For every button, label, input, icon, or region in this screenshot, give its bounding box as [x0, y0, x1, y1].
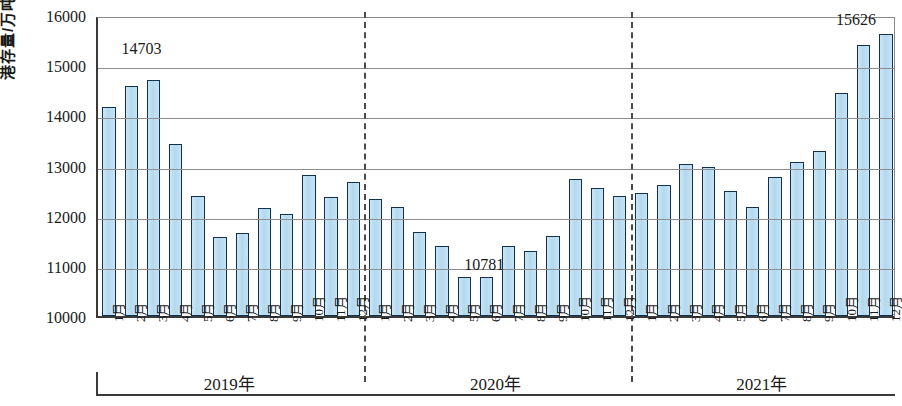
bar-chart: 港存量/万吨 100001100012000130001400015000160… — [0, 0, 902, 406]
bar[interactable] — [280, 214, 293, 316]
x-tick-label: 4月 — [445, 303, 458, 323]
bar[interactable] — [635, 193, 648, 316]
bar[interactable] — [857, 45, 870, 316]
bar[interactable] — [657, 185, 670, 316]
value-annotation: 10781 — [464, 257, 504, 273]
bar[interactable] — [679, 164, 692, 316]
gridline — [98, 118, 894, 119]
x-tick-label: 7月 — [778, 303, 791, 323]
x-axis-group-label: 2021年 — [629, 376, 895, 393]
bar[interactable] — [369, 199, 382, 316]
x-tick-label: 12月 — [889, 296, 902, 322]
y-tick-label: 15000 — [24, 59, 86, 75]
x-tick-label: 8月 — [267, 303, 280, 323]
bar[interactable] — [724, 191, 737, 316]
x-tick-label: 11月 — [867, 296, 880, 322]
x-tick-label: 8月 — [800, 303, 813, 323]
y-tick-label: 11000 — [24, 260, 86, 276]
x-tick-label: 7月 — [245, 303, 258, 323]
y-axis-title: 港存量/万吨 — [0, 0, 17, 80]
bar[interactable] — [102, 107, 115, 316]
x-axis-group-label: 2019年 — [96, 376, 362, 393]
y-tick-label: 14000 — [24, 109, 86, 125]
x-tick-label: 5月 — [467, 303, 480, 323]
bar[interactable] — [258, 208, 271, 316]
x-tick-label: 11月 — [334, 296, 347, 322]
x-tick-label: 7月 — [512, 303, 525, 323]
x-tick-label: 6月 — [223, 303, 236, 323]
x-tick-label: 11月 — [600, 296, 613, 322]
x-tick-label: 4月 — [179, 303, 192, 323]
x-tick-label: 2月 — [667, 303, 680, 323]
x-tick-label: 6月 — [489, 303, 502, 323]
gridline — [98, 219, 894, 220]
bar[interactable] — [835, 93, 848, 316]
x-tick-label: 3月 — [423, 303, 436, 323]
x-tick-label: 9月 — [290, 303, 303, 323]
value-annotation: 14703 — [121, 41, 161, 57]
x-tick-label: 12月 — [356, 296, 369, 322]
x-tick-label: 10月 — [578, 296, 591, 322]
y-tick-label: 16000 — [24, 9, 86, 25]
gridline — [98, 68, 894, 69]
x-tick-label: 5月 — [734, 303, 747, 323]
bar[interactable] — [790, 162, 803, 317]
gridline — [98, 169, 894, 170]
y-axis-tick-labels: 10000110001200013000140001500016000 — [20, 0, 86, 406]
x-tick-label: 12月 — [623, 296, 636, 322]
bar[interactable] — [191, 196, 204, 316]
x-tick-label: 10月 — [312, 296, 325, 322]
x-tick-label: 9月 — [822, 303, 835, 323]
bar[interactable] — [169, 144, 182, 316]
x-tick-label: 2月 — [401, 303, 414, 323]
bar[interactable] — [302, 175, 315, 316]
x-axis-tick-labels: 1月2月3月4月5月6月7月8月9月10月11月12月1月2月3月4月5月6月7… — [96, 320, 895, 376]
y-tick-label: 13000 — [24, 160, 86, 176]
x-tick-label: 4月 — [711, 303, 724, 323]
value-annotation: 15626 — [836, 12, 876, 28]
x-tick-label: 3月 — [689, 303, 702, 323]
x-tick-label: 1月 — [112, 303, 125, 323]
x-tick-label: 5月 — [201, 303, 214, 323]
x-tick-label: 9月 — [556, 303, 569, 323]
x-tick-label: 3月 — [156, 303, 169, 323]
plot-area — [96, 17, 895, 318]
bar[interactable] — [147, 80, 160, 316]
x-axis-group-label: 2020年 — [362, 376, 628, 393]
y-tick-label: 10000 — [24, 310, 86, 326]
bar[interactable] — [702, 167, 715, 316]
bottom-axis-line — [96, 394, 895, 396]
y-tick-label: 12000 — [24, 210, 86, 226]
bar[interactable] — [391, 207, 404, 316]
x-tick-label: 2月 — [134, 303, 147, 323]
bar[interactable] — [813, 151, 826, 316]
x-tick-label: 10月 — [845, 296, 858, 322]
x-tick-label: 8月 — [534, 303, 547, 323]
y-axis-title-text: 港存量/万吨 — [0, 0, 17, 80]
x-tick-label: 1月 — [378, 303, 391, 323]
x-tick-label: 1月 — [645, 303, 658, 323]
bar[interactable] — [746, 207, 759, 316]
x-tick-label: 6月 — [756, 303, 769, 323]
bar[interactable] — [768, 177, 781, 316]
bar[interactable] — [125, 86, 138, 316]
bar[interactable] — [879, 34, 892, 316]
